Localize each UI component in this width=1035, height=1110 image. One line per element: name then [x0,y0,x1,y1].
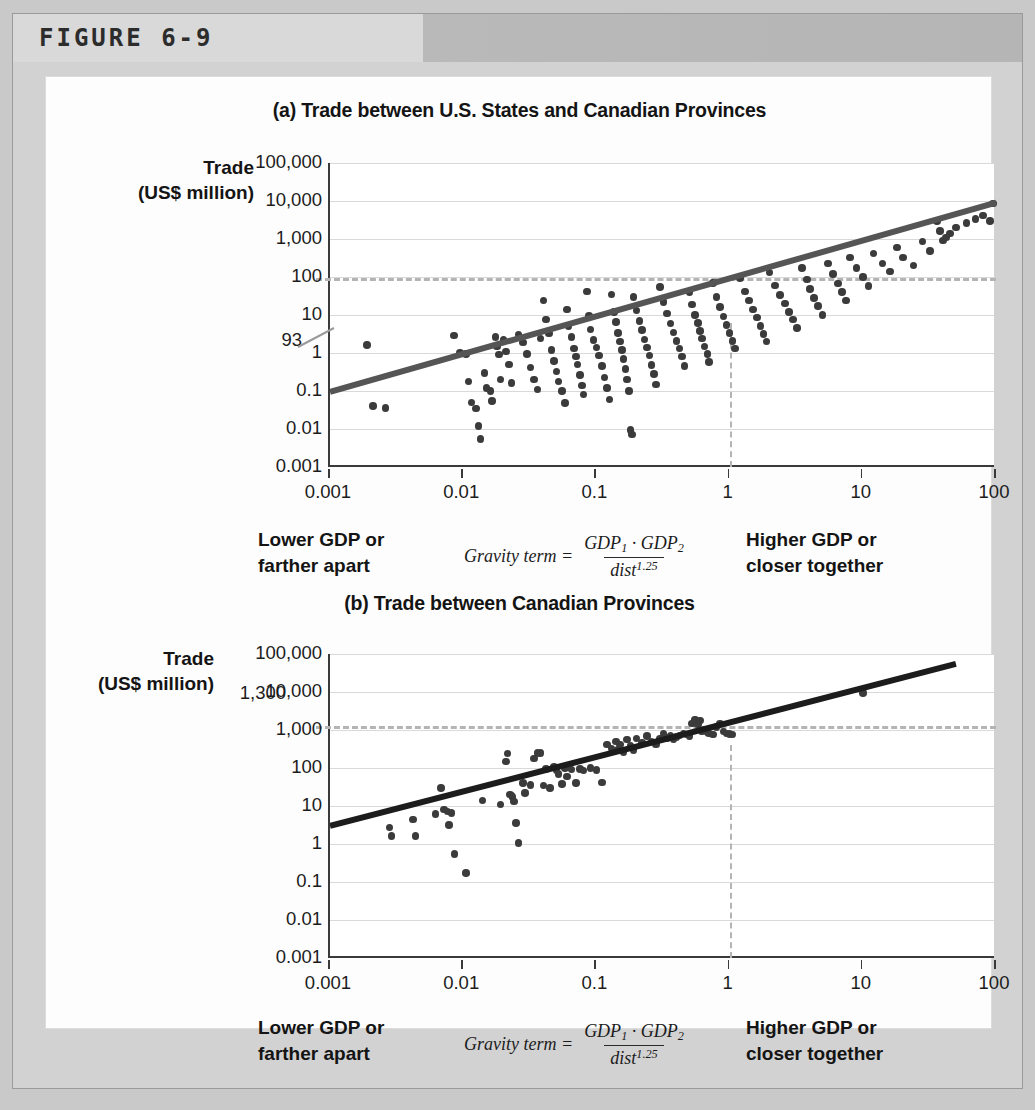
y-tick-label: 100,000 [226,151,322,173]
caption-right-line1: Higher GDP or [746,527,883,553]
y-tick-label: 100 [226,756,322,778]
figure-canvas: (a) Trade between U.S. States and Canadi… [45,76,992,1029]
panel-a-caption-left: Lower GDP or farther apart [258,527,384,579]
x-tick-mark [728,960,730,969]
x-tick-mark [328,469,330,478]
x-tick-mark [861,469,863,478]
formula-numerator-b: GDP1 · GDP2 [578,1021,690,1045]
y-tick-label: 10,000 [226,189,322,211]
y-tick-label: 1,000 [226,227,322,249]
formula-denominator-b: dist1.25 [604,1045,663,1069]
gdp1-text-b: GDP [584,1021,621,1041]
x-tick-label: 0.01 [416,972,506,994]
y-tick-label: 10 [226,303,322,325]
panel-a: (a) Trade between U.S. States and Canadi… [46,77,993,547]
caption-left-line1: Lower GDP or [258,527,384,553]
gdp2-subscript-b: 2 [678,1029,684,1043]
panel-a-title: (a) Trade between U.S. States and Canadi… [46,99,993,122]
x-tick-mark [861,960,863,969]
y-tick-label: 1 [226,341,322,363]
y-tick-label: 0.1 [226,870,322,892]
panel-b-caption-formula: Gravity term = GDP1 · GDP2 dist1.25 [464,1021,690,1069]
y-tick-label: 100 [226,265,322,287]
caption-left-line1-b: Lower GDP or [258,1015,384,1041]
trendline [330,163,996,467]
gdp2-text-b: GDP [641,1021,678,1041]
x-tick-mark [994,469,996,478]
panel-b-title: (b) Trade between Canadian Provinces [46,592,993,615]
y-tick-label: 0.001 [226,946,322,968]
y-tick-label: 0.001 [226,455,322,477]
caption-right-line2: closer together [746,553,883,579]
formula-denominator: dist1.25 [604,557,663,581]
y-tick-label: 10,000 [226,680,322,702]
x-tick-label: 0.001 [283,972,373,994]
formula-fraction-b: GDP1 · GDP2 dist1.25 [578,1021,690,1069]
figure-number-label: FIGURE 6-9 [39,24,214,52]
gdp1-text: GDP [584,533,621,553]
y-tick-label: 100,000 [226,642,322,664]
formula-numerator: GDP1 · GDP2 [578,533,690,557]
formula-lhs-b: Gravity term = [464,1034,573,1055]
panel-a-caption-formula: Gravity term = GDP1 · GDP2 dist1.25 [464,533,690,581]
y-tick-label: 1,000 [226,718,322,740]
gdp1-subscript-b: 1 [621,1029,627,1043]
x-tick-label: 0.1 [549,481,639,503]
x-tick-label: 1 [683,972,773,994]
x-tick-mark [594,960,596,969]
caption-left-line2: farther apart [258,553,384,579]
x-tick-label: 100 [949,481,1035,503]
panel-b-caption-left: Lower GDP or farther apart [258,1015,384,1067]
multiply-dot: · [632,533,637,553]
x-tick-mark [461,469,463,478]
x-tick-label: 0.1 [549,972,639,994]
panel-b-caption: Lower GDP or farther apart Gravity term … [46,995,993,1085]
y-axis-title-line1-b: Trade [66,646,214,671]
x-tick-label: 0.01 [416,481,506,503]
trendline [330,654,996,958]
gdp2-subscript: 2 [678,541,684,555]
x-tick-label: 10 [816,481,906,503]
y-tick-label: 0.01 [226,417,322,439]
dist-text: dist [610,560,636,580]
dist-exponent: 1.25 [636,559,657,573]
dist-exponent-b: 1.25 [636,1047,657,1061]
dist-text-b: dist [610,1048,636,1068]
figure-header-band: FIGURE 6-9 [13,14,1022,62]
panel-b-plot-area [328,654,994,958]
gdp1-subscript: 1 [621,541,627,555]
panel-b: (b) Trade between Canadian Provinces Tra… [46,582,993,1052]
y-tick-label: 0.1 [226,379,322,401]
gdp2-text: GDP [641,533,678,553]
caption-right-line2-b: closer together [746,1041,883,1067]
multiply-dot-b: · [632,1021,637,1041]
y-tick-label: 0.01 [226,908,322,930]
formula-lhs: Gravity term = [464,546,573,567]
x-tick-label: 1 [683,481,773,503]
x-tick-label: 100 [949,972,1035,994]
y-tick-label: 10 [226,794,322,816]
x-tick-mark [461,960,463,969]
x-tick-label: 0.001 [283,481,373,503]
panel-b-caption-right: Higher GDP or closer together [746,1015,883,1067]
x-tick-mark [728,469,730,478]
x-tick-mark [328,960,330,969]
panel-a-caption-right: Higher GDP or closer together [746,527,883,579]
figure-container: FIGURE 6-9 (a) Trade between U.S. States… [12,13,1023,1089]
x-tick-mark [594,469,596,478]
caption-left-line2-b: farther apart [258,1041,384,1067]
x-tick-mark [994,960,996,969]
x-tick-label: 10 [816,972,906,994]
caption-right-line1-b: Higher GDP or [746,1015,883,1041]
panel-a-plot-area [328,163,994,467]
formula-fraction: GDP1 · GDP2 dist1.25 [578,533,690,581]
y-tick-label: 1 [226,832,322,854]
